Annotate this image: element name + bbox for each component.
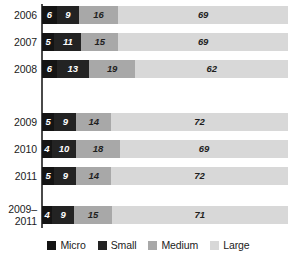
- bar-segment-small: 9: [52, 206, 74, 224]
- bar-segment-medium: 18: [76, 140, 120, 158]
- legend-item-large[interactable]: Large: [210, 239, 249, 251]
- bar-segment-micro: 5: [42, 33, 54, 51]
- row-label-2010: 2010: [0, 140, 37, 158]
- bar-segment-value: 5: [46, 116, 51, 127]
- bar-segment-micro: 6: [42, 6, 57, 24]
- row-label-2006: 2006: [0, 6, 37, 24]
- table-row: 2009591472: [0, 113, 297, 131]
- bar-segment-medium: 19: [89, 60, 136, 78]
- bar-segment-small: 9: [54, 113, 76, 131]
- row-label-2007: 2007: [0, 33, 37, 51]
- bar-segment-value: 4: [44, 209, 49, 220]
- bar-segment-value: 14: [88, 116, 98, 127]
- bar-segment-medium: 16: [79, 6, 118, 24]
- table-row: 2009–2011491571: [0, 206, 297, 224]
- legend-label: Small: [111, 239, 137, 251]
- bar-segment-value: 15: [95, 36, 105, 47]
- legend-swatch-large-icon: [210, 241, 219, 250]
- bar-segment-value: 62: [207, 63, 217, 74]
- bar-segment-large: 62: [135, 60, 288, 78]
- bar-segment-large: 69: [118, 6, 288, 24]
- row-label-2011: 2011: [0, 167, 37, 185]
- table-row: 2011591472: [0, 167, 297, 185]
- bar-segment-value: 6: [47, 9, 52, 20]
- bar-segment-small: 9: [57, 6, 79, 24]
- bar-segment-small: 11: [54, 33, 81, 51]
- bar-segment-micro: 5: [42, 167, 54, 185]
- legend-swatch-micro-icon: [47, 241, 56, 250]
- bar-segment-value: 69: [198, 36, 208, 47]
- legend-item-medium[interactable]: Medium: [148, 239, 198, 251]
- bar-segment-large: 69: [118, 33, 288, 51]
- plot-area: 2006691669200751115692008613196220095914…: [0, 0, 297, 232]
- bar-segment-value: 72: [194, 116, 204, 127]
- stacked-bar: 6131962: [42, 60, 288, 78]
- table-row: 2006691669: [0, 6, 297, 24]
- bar-segment-large: 69: [120, 140, 288, 158]
- stacked-bar: 691669: [42, 6, 288, 24]
- bar-segment-value: 9: [63, 170, 68, 181]
- table-row: 20075111569: [0, 33, 297, 51]
- bar-segment-value: 69: [198, 9, 208, 20]
- legend-swatch-medium-icon: [148, 241, 157, 250]
- stacked-bar-chart: 2006691669200751115692008613196220095914…: [0, 0, 297, 260]
- row-label-2008: 2008: [0, 60, 37, 78]
- bar-segment-value: 19: [107, 63, 117, 74]
- chart-legend: MicroSmallMediumLarge: [0, 236, 297, 254]
- legend-swatch-small-icon: [98, 241, 107, 250]
- bar-segment-value: 18: [93, 143, 103, 154]
- bar-segment-micro: 4: [42, 206, 52, 224]
- row-label-2009-2011: 2009–2011: [0, 197, 37, 233]
- bar-segment-small: 13: [57, 60, 89, 78]
- bar-segment-value: 9: [61, 209, 66, 220]
- bar-segment-large: 71: [112, 206, 288, 224]
- legend-item-micro[interactable]: Micro: [47, 239, 85, 251]
- row-label-2009: 2009: [0, 113, 37, 131]
- table-row: 20086131962: [0, 60, 297, 78]
- legend-label: Medium: [161, 239, 198, 251]
- bar-segment-value: 4: [44, 143, 49, 154]
- bar-segment-value: 69: [199, 143, 209, 154]
- bar-segment-value: 5: [46, 36, 51, 47]
- bar-segment-small: 9: [54, 167, 76, 185]
- bar-segment-value: 16: [93, 9, 103, 20]
- bar-segment-value: 9: [63, 116, 68, 127]
- bar-segment-value: 14: [88, 170, 98, 181]
- legend-item-small[interactable]: Small: [98, 239, 137, 251]
- bar-segment-value: 9: [65, 9, 70, 20]
- legend-label: Micro: [60, 239, 85, 251]
- bar-segment-medium: 14: [76, 113, 110, 131]
- bar-segment-value: 71: [195, 209, 205, 220]
- bar-segment-medium: 15: [74, 206, 111, 224]
- bar-segment-micro: 4: [42, 140, 52, 158]
- bar-segment-value: 10: [59, 143, 69, 154]
- stacked-bar: 5111569: [42, 33, 288, 51]
- bar-segment-small: 10: [52, 140, 76, 158]
- stacked-bar: 591472: [42, 113, 288, 131]
- bar-segment-value: 11: [63, 36, 73, 47]
- legend-label: Large: [223, 239, 249, 251]
- bar-segment-value: 72: [194, 170, 204, 181]
- bar-segment-large: 72: [111, 167, 288, 185]
- stacked-bar: 491571: [42, 206, 288, 224]
- bar-segment-value: 13: [68, 63, 78, 74]
- bar-segment-medium: 14: [76, 167, 110, 185]
- bar-segment-micro: 6: [42, 60, 57, 78]
- bar-segment-value: 6: [47, 63, 52, 74]
- stacked-bar: 591472: [42, 167, 288, 185]
- bar-segment-large: 72: [111, 113, 288, 131]
- bar-segment-value: 15: [88, 209, 98, 220]
- bar-segment-medium: 15: [81, 33, 118, 51]
- table-row: 20104101869: [0, 140, 297, 158]
- bar-segment-value: 5: [46, 170, 51, 181]
- stacked-bar: 4101869: [42, 140, 288, 158]
- bar-segment-micro: 5: [42, 113, 54, 131]
